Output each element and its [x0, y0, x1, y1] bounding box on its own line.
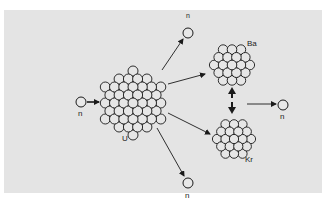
label-barium: Ba	[247, 40, 257, 48]
arrow-uranium-to-neutron-top	[162, 39, 183, 70]
krypton-nucleus	[212, 120, 255, 159]
label-incoming-neutron: n	[78, 110, 82, 118]
label-uranium: U	[122, 135, 128, 143]
uranium-nucleus	[100, 66, 166, 140]
neutron-top	[183, 28, 193, 38]
arrow-uranium-to-barium	[168, 74, 205, 84]
arrow-uranium-to-neutron-bottom	[157, 128, 184, 176]
label-krypton: Kr	[245, 156, 253, 164]
incoming-neutron	[76, 97, 86, 107]
arrow-uranium-to-krypton	[168, 113, 210, 134]
neutron-right	[278, 100, 288, 110]
barium-nucleus	[209, 45, 254, 85]
label-neutron-bottom: n	[185, 192, 189, 200]
neutron-bottom	[183, 178, 193, 188]
double-arrow-icon	[228, 87, 236, 114]
label-neutron-top: n	[186, 12, 190, 19]
fission-diagram	[0, 0, 327, 210]
label-neutron-right: n	[280, 113, 284, 121]
